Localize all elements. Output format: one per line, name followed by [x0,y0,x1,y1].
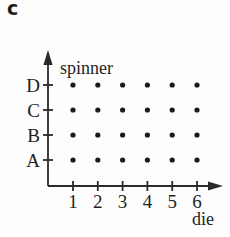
x-tick-label: 1 [68,191,78,212]
data-dot [95,107,100,112]
sample-space-chart: ABCD123456spinnerdie [0,0,230,237]
data-dot [170,107,175,112]
data-dot [70,157,75,162]
data-dot [145,82,150,87]
data-dot [120,107,125,112]
data-dot [70,132,75,137]
data-dot [95,132,100,137]
data-dot [95,157,100,162]
data-dot [145,132,150,137]
y-tick-label: A [26,150,40,171]
x-axis-arrowhead-icon [208,181,223,190]
x-axis-title: die [192,209,214,229]
data-dot [120,132,125,137]
x-tick-label: 3 [118,191,128,212]
data-dot [170,132,175,137]
data-dot [194,107,199,112]
data-dot [194,82,199,87]
data-dot [95,82,100,87]
y-tick-label: C [27,100,40,121]
data-dot [170,82,175,87]
data-dot [170,157,175,162]
x-tick-label: 2 [93,191,103,212]
figure-panel: c ABCD123456spinnerdie [0,0,230,237]
data-dot [70,82,75,87]
data-dot [194,132,199,137]
data-dot [145,157,150,162]
x-tick-label: 5 [167,191,177,212]
data-dot [194,157,199,162]
x-tick-label: 4 [143,191,153,212]
data-dot [145,107,150,112]
data-dot [120,157,125,162]
data-dot [120,82,125,87]
y-axis-arrowhead-icon [43,50,52,65]
y-tick-label: D [26,75,40,96]
data-dot [70,107,75,112]
y-tick-label: B [27,125,40,146]
y-axis-title: spinner [60,58,113,78]
